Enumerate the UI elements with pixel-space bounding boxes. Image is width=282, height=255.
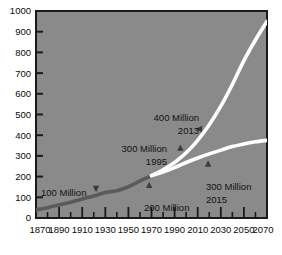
y-tick-label-400: 400	[15, 130, 31, 141]
y-tick-label-100: 100	[15, 192, 31, 203]
x-tick-label-1910: 1910	[72, 224, 93, 235]
chart-canvas: 01002003004005006007008009001000 1870189…	[0, 0, 282, 255]
y-tick-label-200: 200	[15, 171, 31, 182]
label-300-million-2015-line2: 2015	[206, 194, 227, 205]
label-400-million-2013-line2: 2013	[178, 125, 199, 136]
y-tick-label-300: 300	[15, 150, 31, 161]
y-axis-tick-labels: 01002003004005006007008009001000	[10, 5, 31, 223]
population-projection-chart: 01002003004005006007008009001000 1870189…	[0, 0, 282, 255]
y-tick-label-700: 700	[15, 68, 31, 79]
x-tick-label-1990: 1990	[164, 224, 185, 235]
y-tick-label-900: 900	[15, 26, 31, 37]
label-300-million-1995-line2: 1995	[146, 156, 167, 167]
x-tick-label-2050: 2050	[233, 224, 254, 235]
y-tick-label-800: 800	[15, 47, 31, 58]
label-100-million: 100 Million	[41, 187, 86, 198]
y-tick-label-0: 0	[26, 212, 31, 223]
x-tick-label-1890: 1890	[49, 224, 70, 235]
x-tick-label-1970: 1970	[141, 224, 162, 235]
x-tick-label-2070: 2070	[252, 224, 273, 235]
label-400-million-2013-line1: 400 Million	[154, 112, 199, 123]
x-tick-label-2010: 2010	[187, 224, 208, 235]
x-tick-label-1950: 1950	[118, 224, 139, 235]
label-300-million-2015-line1: 300 Million	[206, 181, 251, 192]
label-300-million-1995-line1: 300 Million	[122, 143, 167, 154]
y-tick-label-600: 600	[15, 88, 31, 99]
label-200-million: 200 Million	[144, 202, 189, 213]
x-tick-label-2030: 2030	[210, 224, 231, 235]
y-tick-label-1000: 1000	[10, 5, 31, 16]
x-axis-tick-labels: 1870189019101930195019701990201020302050…	[29, 224, 273, 235]
x-tick-label-1930: 1930	[95, 224, 116, 235]
y-tick-label-500: 500	[15, 109, 31, 120]
x-tick-label-1870: 1870	[29, 224, 50, 235]
